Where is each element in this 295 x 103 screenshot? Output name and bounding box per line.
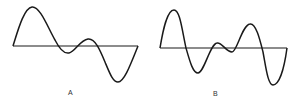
panel-b (160, 10, 287, 85)
panel-label-a: A (68, 89, 73, 96)
panel-label-b: B (213, 90, 218, 97)
waveform-a (13, 7, 138, 82)
panel-a (13, 7, 138, 82)
waveform-diagram (0, 0, 295, 103)
